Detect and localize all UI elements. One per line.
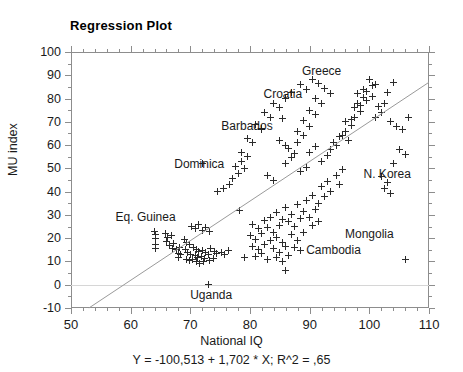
y-tick-label: 20 bbox=[47, 231, 61, 245]
x-tick-minor bbox=[238, 308, 239, 311]
y-tick bbox=[429, 122, 435, 123]
x-tick-minor bbox=[95, 308, 96, 311]
x-tick-label: 60 bbox=[123, 317, 137, 332]
chart-title: Regression Plot bbox=[70, 18, 172, 33]
y-tick-label: 100 bbox=[40, 45, 61, 59]
x-tick-minor bbox=[334, 308, 335, 311]
y-tick-minor bbox=[429, 203, 432, 204]
x-tick bbox=[131, 308, 132, 314]
x-tick-label: 100 bbox=[358, 317, 380, 332]
y-tick-label: 40 bbox=[47, 185, 61, 199]
x-tick bbox=[250, 308, 251, 314]
y-tick-label: 10 bbox=[47, 254, 61, 268]
x-tick-minor bbox=[393, 308, 394, 311]
y-tick-label: 50 bbox=[47, 161, 61, 175]
point-label: Uganda bbox=[190, 288, 232, 302]
x-tick-minor bbox=[417, 308, 418, 311]
y-tick-minor bbox=[429, 227, 432, 228]
y-tick-minor bbox=[429, 110, 432, 111]
y-tick-minor bbox=[429, 133, 432, 134]
y-tick bbox=[429, 261, 435, 262]
x-tick-label: 110 bbox=[419, 317, 440, 332]
y-tick-label: 80 bbox=[47, 92, 61, 106]
y-tick bbox=[429, 238, 435, 239]
y-tick-minor bbox=[429, 296, 432, 297]
y-tick-label: -10 bbox=[43, 301, 61, 315]
y-tick bbox=[429, 99, 435, 100]
x-tick-label: 50 bbox=[64, 317, 78, 332]
chart-canvas: Regression Plot MU index GreeceCroatiaBa… bbox=[0, 0, 463, 372]
x-tick-minor bbox=[143, 308, 144, 311]
y-tick bbox=[429, 168, 435, 169]
plot-area: GreeceCroatiaBarbadosDominicaEq. GuineaN… bbox=[71, 52, 429, 308]
x-tick-minor bbox=[322, 308, 323, 311]
x-tick-minor bbox=[345, 308, 346, 311]
y-tick-minor bbox=[429, 273, 432, 274]
x-tick-minor bbox=[298, 308, 299, 311]
point-label: Greece bbox=[302, 64, 341, 78]
point-label: Mongolia bbox=[345, 227, 394, 241]
x-tick bbox=[369, 308, 370, 314]
x-tick bbox=[429, 308, 430, 314]
y-tick bbox=[429, 145, 435, 146]
y-tick bbox=[429, 215, 435, 216]
x-tick bbox=[71, 308, 72, 314]
point-label: Barbados bbox=[221, 119, 272, 133]
x-tick-minor bbox=[214, 308, 215, 311]
y-tick bbox=[429, 52, 435, 53]
y-tick bbox=[429, 192, 435, 193]
x-tick-minor bbox=[155, 308, 156, 311]
y-tick-minor bbox=[429, 87, 432, 88]
x-tick-minor bbox=[405, 308, 406, 311]
y-axis-title: MU index bbox=[6, 123, 20, 176]
point-label: Eq. Guinea bbox=[116, 210, 176, 224]
y-tick-label: 30 bbox=[47, 208, 61, 222]
y-tick-minor bbox=[429, 180, 432, 181]
regression-equation: Y = -100,513 + 1,702 * X; R^2 = ,65 bbox=[0, 353, 463, 367]
y-tick-minor bbox=[429, 250, 432, 251]
y-tick-minor bbox=[429, 157, 432, 158]
y-tick-label: 0 bbox=[54, 278, 61, 292]
x-tick-minor bbox=[274, 308, 275, 311]
y-tick-label: 70 bbox=[47, 115, 61, 129]
x-tick bbox=[429, 46, 430, 52]
y-tick-label: 90 bbox=[47, 68, 61, 82]
point-label: Cambodia bbox=[306, 243, 361, 257]
y-tick-minor bbox=[429, 64, 432, 65]
point-label: N. Korea bbox=[364, 167, 411, 181]
x-tick-label: 90 bbox=[302, 317, 316, 332]
x-tick-label: 70 bbox=[183, 317, 197, 332]
x-tick-minor bbox=[107, 308, 108, 311]
point-label: Croatia bbox=[263, 87, 302, 101]
x-tick-minor bbox=[119, 308, 120, 311]
x-tick-minor bbox=[381, 308, 382, 311]
x-tick-minor bbox=[83, 308, 84, 311]
x-tick-minor bbox=[178, 308, 179, 311]
x-tick-minor bbox=[166, 308, 167, 311]
x-tick-minor bbox=[357, 308, 358, 311]
y-tick bbox=[429, 285, 435, 286]
x-tick bbox=[310, 308, 311, 314]
y-tick bbox=[429, 75, 435, 76]
x-tick-label: 80 bbox=[243, 317, 257, 332]
y-tick-label: 60 bbox=[47, 138, 61, 152]
point-label: Dominica bbox=[174, 157, 224, 171]
x-tick-minor bbox=[262, 308, 263, 311]
x-axis-title: National IQ bbox=[0, 334, 463, 348]
x-tick-minor bbox=[286, 308, 287, 311]
x-tick-minor bbox=[226, 308, 227, 311]
x-tick bbox=[190, 308, 191, 314]
x-tick-minor bbox=[202, 308, 203, 311]
